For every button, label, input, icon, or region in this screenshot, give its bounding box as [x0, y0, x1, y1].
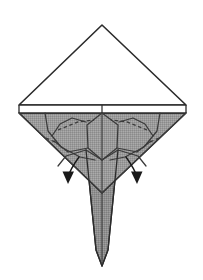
origami-figure: Origami folding step diagram [0, 0, 203, 280]
origami-diagram-canvas: Origami folding step diagram [0, 0, 203, 280]
